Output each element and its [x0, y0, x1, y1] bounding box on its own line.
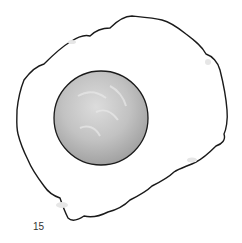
fried-egg-illustration	[0, 0, 242, 243]
white-shading	[68, 40, 76, 44]
white-shading	[56, 202, 68, 208]
page-number: 15	[33, 221, 44, 232]
egg-yolk	[54, 71, 148, 165]
white-shading	[187, 158, 197, 163]
white-shading	[205, 59, 211, 65]
